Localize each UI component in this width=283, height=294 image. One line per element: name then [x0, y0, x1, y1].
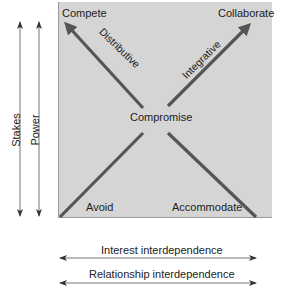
avoid-label: Avoid	[86, 201, 113, 213]
interest-interdependence-label: Interest interdependence	[101, 244, 223, 256]
stakes-label: Stakes	[10, 110, 22, 150]
integrative-arrow	[168, 27, 247, 106]
compromise-label: Compromise	[130, 111, 192, 123]
compete-label: Compete	[62, 7, 107, 19]
accommodate-label: Accommodate	[172, 201, 242, 213]
collaborate-label: Collaborate	[218, 7, 274, 19]
relationship-interdependence-label: Relationship interdependence	[89, 268, 235, 280]
power-label: Power	[29, 110, 41, 150]
